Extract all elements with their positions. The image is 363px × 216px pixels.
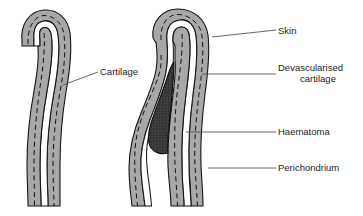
label-devascularised-cartilage-line2: cartilage: [278, 73, 358, 84]
label-skin: Skin: [278, 25, 296, 36]
label-haematoma: Haematoma: [278, 126, 330, 137]
label-devascularised-cartilage: Devascularised cartilage: [278, 62, 358, 84]
label-perichondrium: Perichondrium: [278, 162, 339, 173]
figure-canvas: Cartilage Skin Devascularised cartilage …: [0, 0, 363, 216]
leader-line-skin: [212, 30, 276, 37]
label-cartilage: Cartilage: [100, 66, 138, 77]
panel-normal-ear: [22, 10, 71, 206]
anatomy-illustration: [0, 0, 363, 216]
panel-haematoma-ear: [129, 9, 209, 206]
label-devascularised-cartilage-line1: Devascularised: [278, 62, 358, 73]
